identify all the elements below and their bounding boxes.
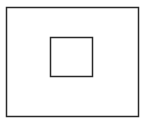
diagram-canvas <box>0 0 146 122</box>
diagram-svg <box>0 0 146 122</box>
inner-rectangle <box>51 38 93 77</box>
outer-rectangle <box>7 8 139 117</box>
